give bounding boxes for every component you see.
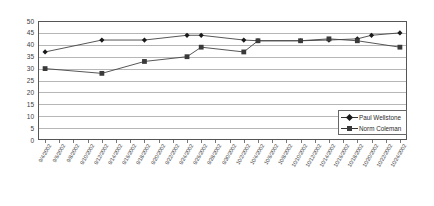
legend-label-coleman: Norm Coleman [358, 124, 401, 133]
legend: Paul Wellstone Norm Coleman [338, 110, 407, 135]
legend-item-wellstone: Paul Wellstone [339, 112, 406, 123]
data-point-square [142, 59, 147, 64]
data-point-diamond [42, 49, 47, 54]
data-point-square [199, 45, 204, 50]
data-point-diamond [142, 37, 147, 42]
data-point-square [327, 36, 332, 41]
series-line [45, 33, 400, 52]
legend-label-wellstone: Paul Wellstone [358, 113, 401, 122]
data-point-diamond [184, 33, 189, 38]
data-point-diamond [369, 33, 374, 38]
data-point-square [241, 50, 246, 55]
legend-item-coleman: Norm Coleman [339, 123, 406, 134]
series-layer [0, 0, 434, 206]
data-point-square [256, 38, 261, 43]
data-point-square [99, 71, 104, 76]
data-point-diamond [99, 37, 104, 42]
data-point-square [298, 38, 303, 43]
square-marker-icon [341, 124, 358, 133]
series-line [45, 39, 400, 74]
data-point-square [355, 38, 360, 43]
line-chart: 05101520253035404550 9/4/20029/6/20029/8… [0, 0, 434, 206]
data-point-diamond [397, 30, 402, 35]
data-point-square [185, 54, 190, 59]
data-point-square [398, 45, 403, 50]
data-point-diamond [241, 37, 246, 42]
data-point-square [43, 66, 48, 71]
diamond-marker-icon [341, 113, 358, 122]
data-point-diamond [199, 33, 204, 38]
